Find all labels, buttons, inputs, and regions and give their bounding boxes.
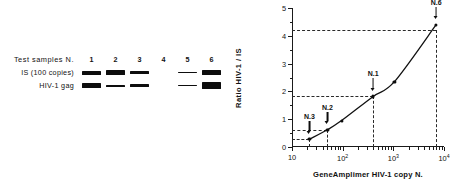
x-tick-100 <box>343 147 344 151</box>
x-tick-label-1000: 103 <box>388 153 399 163</box>
x-tick-minor <box>331 147 332 150</box>
y-tick-label-0: 0 <box>282 143 286 152</box>
gel-lane-header-3: 3 <box>129 55 150 64</box>
gel-lane-number: 4 <box>162 55 166 64</box>
y-tick-label-5: 5 <box>282 4 286 13</box>
gel-band <box>82 83 101 88</box>
gel-lane-6 <box>201 82 222 89</box>
gel-lane-header-1: 1 <box>81 55 102 64</box>
gel-lane-header-5: 5 <box>177 55 198 64</box>
gel-band <box>130 84 149 86</box>
gel-lane-number: 3 <box>138 55 142 64</box>
gel-lane-1 <box>81 70 102 75</box>
gel-lane-1 <box>81 82 102 89</box>
x-tick-minor <box>385 147 386 150</box>
x-tick-1000 <box>393 147 394 151</box>
gel-lane-5 <box>177 70 198 75</box>
gel-lane-number: 5 <box>186 55 190 64</box>
figure-root: Test samples N. 123456 IS (100 copies) H… <box>0 0 465 189</box>
gel-header-label: Test samples N. <box>12 55 81 64</box>
x-tick-label-10000: 104 <box>438 153 449 163</box>
x-tick-minor <box>424 147 425 150</box>
x-tick-10 <box>292 147 293 151</box>
gel-lane-4 <box>153 70 174 75</box>
x-tick-minor <box>436 147 437 150</box>
x-tick-minor <box>382 147 383 150</box>
gel-band <box>106 70 125 75</box>
x-tick-minor <box>378 147 379 150</box>
x-tick-minor <box>373 147 374 150</box>
gel-header-row: Test samples N. 123456 <box>12 52 222 66</box>
y-tick-label-4: 4 <box>282 31 286 40</box>
x-tick-minor <box>418 147 419 150</box>
gel-row-label-is: IS (100 copies) <box>12 68 81 77</box>
annotation-label: N.2 <box>322 104 333 111</box>
gel-lane-numbers: 123456 <box>81 55 222 64</box>
x-tick-minor <box>316 147 317 150</box>
gel-lane-5 <box>177 82 198 89</box>
x-tick-10000 <box>444 147 445 151</box>
gel-lane-4 <box>153 82 174 89</box>
gel-lane-number: 6 <box>210 55 214 64</box>
gel-lane-header-6: 6 <box>201 55 222 64</box>
gel-band <box>202 82 221 89</box>
gel-band <box>82 71 101 75</box>
x-tick-minor <box>367 147 368 150</box>
gel-row-hiv1gag: HIV-1 gag <box>12 79 222 92</box>
gel-band <box>106 85 125 87</box>
gel-band <box>130 71 149 75</box>
gel-grid: Test samples N. 123456 IS (100 copies) H… <box>12 52 222 92</box>
gel-lane-6 <box>201 70 222 75</box>
x-tick-label-10: 10 <box>288 153 296 162</box>
x-tick-minor <box>358 147 359 150</box>
x-tick-minor <box>429 147 430 150</box>
gel-lane-header-4: 4 <box>153 55 174 64</box>
gel-band <box>178 85 197 87</box>
x-tick-label-100: 102 <box>337 153 348 163</box>
x-tick-minor <box>307 147 308 150</box>
y-tick-label-1: 1 <box>282 115 286 124</box>
annotation-label: N.3 <box>304 113 315 120</box>
gel-lane-3 <box>129 70 150 75</box>
gel-lane-number: 1 <box>90 55 94 64</box>
gel-lane-header-2: 2 <box>105 55 126 64</box>
gel-row-is: IS (100 copies) <box>12 66 222 79</box>
x-tick-minor <box>323 147 324 150</box>
x-tick-minor <box>335 147 336 150</box>
annotation-N6: N.6 <box>431 0 442 7</box>
x-tick-minor <box>327 147 328 150</box>
annotation-label: N.6 <box>431 0 442 6</box>
chart-x-axis-title: GeneAmplimer HIV-1 copy N. <box>313 170 423 179</box>
gel-band <box>202 70 221 74</box>
chart-panel: Ratio HIV-1 / IS GeneAmplimer HIV-1 copy… <box>232 0 465 189</box>
y-tick-label-3: 3 <box>282 59 286 68</box>
gel-lane-2 <box>105 82 126 89</box>
x-tick-minor <box>433 147 434 150</box>
x-tick-minor <box>338 147 339 150</box>
y-tick-label-2: 2 <box>282 87 286 96</box>
x-tick-minor <box>442 147 443 150</box>
x-tick-minor <box>340 147 341 150</box>
x-tick-minor <box>388 147 389 150</box>
gel-lane-2 <box>105 70 126 75</box>
gel-bands-hiv1gag <box>81 82 222 89</box>
chart-y-axis-title: Ratio HIV-1 / IS <box>234 48 243 108</box>
gel-bands-is <box>81 70 222 75</box>
gel-lane-3 <box>129 82 150 89</box>
x-tick-minor <box>409 147 410 150</box>
annotation-N1: N.1 <box>368 70 379 78</box>
x-tick-minor <box>439 147 440 150</box>
x-tick-minor <box>391 147 392 150</box>
gel-row-label-hiv1gag: HIV-1 gag <box>12 81 81 90</box>
gel-band <box>178 72 197 74</box>
gel-panel: Test samples N. 123456 IS (100 copies) H… <box>0 0 232 189</box>
annotation-N3: N.3 <box>304 113 315 121</box>
annotation-N2: N.2 <box>322 104 333 112</box>
annotation-label: N.1 <box>368 70 379 77</box>
plot-area: 012345 10102103104 N.3N.2N.1N.6 <box>292 8 444 147</box>
gel-lane-number: 2 <box>114 55 118 64</box>
